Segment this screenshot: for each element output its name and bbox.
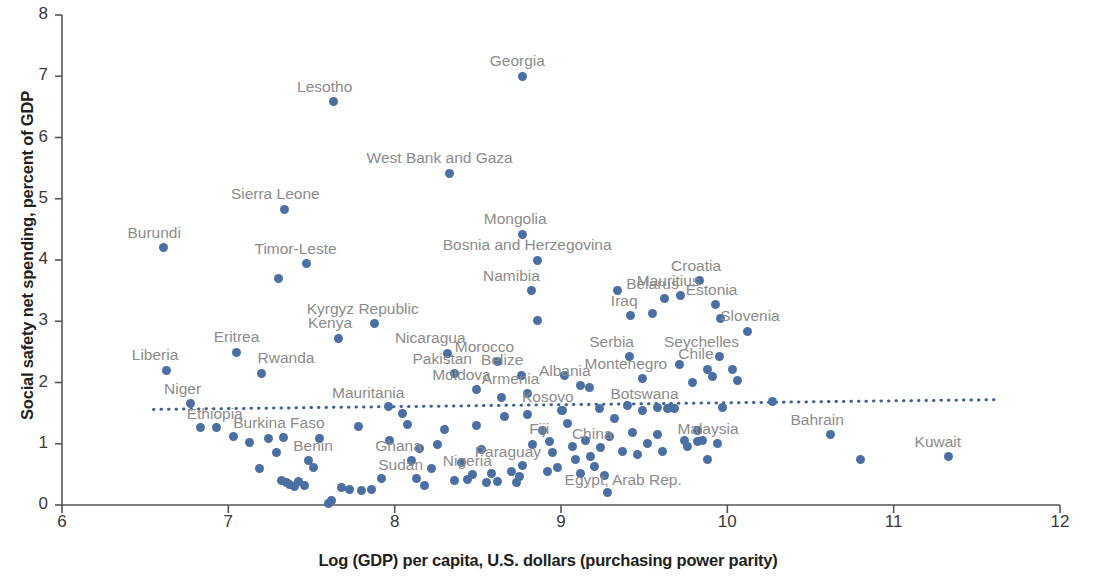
data-point-labeled (826, 430, 835, 439)
data-point-labeled (445, 169, 454, 178)
data-point-labeled (257, 369, 266, 378)
data-point-label: Estonia (686, 281, 738, 299)
data-point (533, 316, 542, 325)
data-point-label: Malaysia (677, 420, 738, 438)
data-point (553, 463, 562, 472)
data-point-label: Sierra Leone (231, 185, 320, 203)
y-tick-label: 5 (14, 188, 48, 208)
data-point (523, 410, 532, 419)
data-point-labeled (280, 205, 289, 214)
data-point (586, 452, 595, 461)
scatter-chart: Social safety net spending, percent of G… (0, 0, 1096, 581)
data-point (377, 474, 386, 483)
data-point-labeled (715, 352, 724, 361)
data-point-labeled (660, 294, 669, 303)
data-point-label: Serbia (589, 333, 634, 351)
data-point (427, 464, 436, 473)
data-point-label: Eritrea (214, 328, 260, 346)
data-point (590, 462, 599, 471)
data-point (367, 485, 376, 494)
data-point (229, 432, 238, 441)
data-point-labeled (557, 406, 566, 415)
data-point (196, 423, 205, 432)
data-point-label: Rwanda (258, 349, 315, 367)
data-point-labeled (412, 474, 421, 483)
data-point-labeled (472, 385, 481, 394)
data-point-labeled (533, 256, 542, 265)
y-tick-label: 2 (14, 372, 48, 392)
data-point-label: Albania (539, 362, 591, 380)
data-point-labeled (703, 365, 712, 374)
data-point-label: China (572, 425, 613, 443)
data-point-label: Timor-Leste (255, 240, 337, 258)
x-tick-label: 12 (1040, 512, 1080, 532)
data-point-label: Chile (678, 345, 713, 363)
x-tick-label: 10 (707, 512, 747, 532)
data-point-label: Armenia (482, 370, 540, 388)
data-point-labeled (212, 423, 221, 432)
data-point-labeled (384, 402, 393, 411)
x-tick-label: 7 (208, 512, 248, 532)
data-point-label: Fiji (529, 420, 549, 438)
data-point-label: Ghana (375, 437, 422, 455)
data-point-labeled (334, 334, 343, 343)
y-tick-label: 8 (14, 4, 48, 24)
data-point-label: Mauritania (332, 384, 404, 402)
y-tick-label: 6 (14, 127, 48, 147)
data-point (638, 406, 647, 415)
x-tick-label: 9 (541, 512, 581, 532)
x-tick-label: 6 (42, 512, 82, 532)
y-tick-label: 4 (14, 249, 48, 269)
data-point-labeled (279, 433, 288, 442)
data-point (768, 397, 777, 406)
data-point (688, 378, 697, 387)
data-point-labeled (743, 327, 752, 336)
data-point-label: Belarus (626, 275, 679, 293)
data-point (728, 365, 737, 374)
data-point-label: Benin (293, 437, 333, 455)
data-point (703, 455, 712, 464)
data-point-label: Paraguay (475, 443, 541, 461)
data-point-label: Iraq (611, 292, 638, 310)
y-tick-label: 3 (14, 310, 48, 330)
data-point (472, 421, 481, 430)
data-point (497, 393, 506, 402)
data-point (618, 447, 627, 456)
data-point (670, 404, 679, 413)
data-point (653, 430, 662, 439)
data-point-label: Bahrain (790, 411, 843, 429)
data-point (450, 476, 459, 485)
data-point-labeled (518, 72, 527, 81)
data-point-label: Kosovo (522, 388, 574, 406)
plot-area (0, 0, 1096, 581)
data-point-labeled (162, 366, 171, 375)
data-point-label: Botswana (610, 385, 678, 403)
data-point (354, 422, 363, 431)
data-point-label: Georgia (490, 52, 545, 70)
data-point-label: Sudan (378, 456, 423, 474)
data-point-labeled (518, 461, 527, 470)
data-point-labeled (527, 286, 536, 295)
data-point-label: Mongolia (484, 210, 547, 228)
data-point-label: West Bank and Gaza (367, 149, 513, 167)
data-point (543, 467, 552, 476)
data-point-label: Montenegro (585, 355, 668, 373)
x-tick-label: 8 (375, 512, 415, 532)
axes (55, 15, 1060, 513)
data-point-labeled (653, 403, 662, 412)
data-point (420, 481, 429, 490)
data-point-label: Kenya (308, 314, 352, 332)
x-tick-label: 11 (874, 512, 914, 532)
data-point (733, 376, 742, 385)
data-point (856, 455, 865, 464)
data-point (585, 383, 594, 392)
data-point-label: Bosnia and Herzegovina (443, 236, 612, 254)
data-point (718, 403, 727, 412)
data-point-label: Egypt, Arab Rep. (565, 471, 682, 489)
y-tick-label: 1 (14, 433, 48, 453)
data-point (595, 404, 604, 413)
trend-line (153, 400, 998, 410)
data-point-label: Burkina Faso (233, 414, 324, 432)
data-point (274, 274, 283, 283)
data-point-label: Liberia (132, 346, 179, 364)
